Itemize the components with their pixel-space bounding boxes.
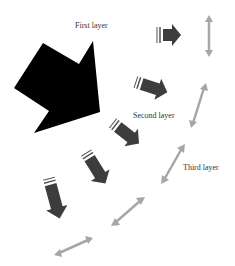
- main-arrow-icon: [14, 41, 100, 133]
- diagram-canvas: [0, 0, 235, 266]
- layer-arrow-3-icon: [106, 115, 146, 153]
- layer-arrow-4-icon: [77, 147, 115, 189]
- first-layer-label: First layer: [75, 22, 108, 30]
- layer-arrow-5-icon: [38, 176, 70, 221]
- third-layer-label: Third layer: [183, 164, 219, 172]
- layer-arrow-1-icon: [157, 24, 181, 46]
- double-arrow-4-icon: [111, 197, 145, 226]
- second-layer-label: Second layer: [133, 112, 175, 120]
- double-arrow-5-icon: [54, 236, 93, 257]
- double-arrow-2-icon: [189, 83, 208, 128]
- layer-arrow-2-icon: [133, 72, 171, 103]
- double-arrow-3-icon: [161, 144, 185, 184]
- double-arrow-1-icon: [205, 15, 213, 57]
